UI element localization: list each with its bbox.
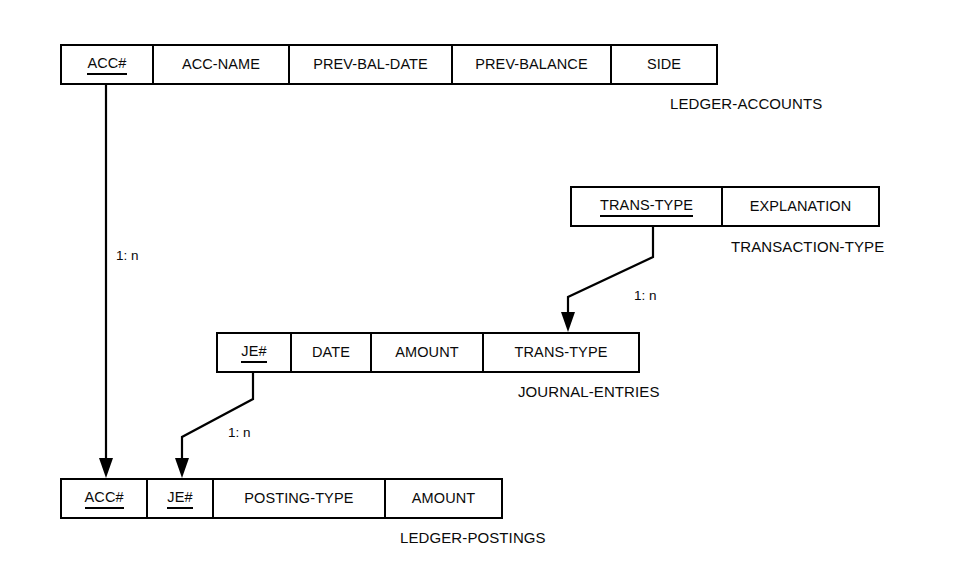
- entity-transaction-type[interactable]: TRANS-TYPE EXPLANATION: [570, 186, 880, 227]
- attribute-label: SIDE: [647, 56, 681, 73]
- attribute-posting-amount[interactable]: AMOUNT: [386, 480, 501, 517]
- attribute-side[interactable]: SIDE: [612, 46, 716, 83]
- entity-name-journal-entries: JOURNAL-ENTRIES: [518, 383, 660, 400]
- attribute-label: TRANS-TYPE: [600, 197, 693, 217]
- cardinality-accounts-to-postings: 1: n: [116, 248, 139, 263]
- attribute-label: PREV-BALANCE: [475, 56, 587, 73]
- entity-ledger-postings[interactable]: ACC# JE# POSTING-TYPE AMOUNT: [60, 478, 503, 519]
- attribute-acc-number[interactable]: ACC#: [62, 46, 154, 83]
- attribute-label: AMOUNT: [412, 490, 475, 507]
- attribute-label: AMOUNT: [395, 344, 458, 361]
- attribute-prev-balance[interactable]: PREV-BALANCE: [453, 46, 612, 83]
- attribute-label: ACC-NAME: [182, 56, 260, 73]
- entity-name-transaction-type: TRANSACTION-TYPE: [731, 238, 884, 255]
- attribute-label: JE#: [241, 343, 266, 363]
- attribute-label: EXPLANATION: [750, 198, 852, 215]
- attribute-label: ACC#: [85, 489, 124, 509]
- attribute-label: ACC#: [87, 55, 126, 75]
- attribute-date[interactable]: DATE: [292, 334, 372, 371]
- attribute-label: TRANS-TYPE: [515, 344, 608, 361]
- diagram-canvas: ACC# ACC-NAME PREV-BAL-DATE PREV-BALANCE…: [0, 0, 965, 588]
- attribute-acc-name[interactable]: ACC-NAME: [154, 46, 290, 83]
- cardinality-transtype-to-journal: 1: n: [634, 288, 657, 303]
- attribute-amount[interactable]: AMOUNT: [372, 334, 484, 371]
- attribute-posting-type[interactable]: POSTING-TYPE: [214, 480, 386, 517]
- connector-accounts-to-postings: [99, 85, 113, 478]
- arrowhead-icon: [561, 312, 575, 332]
- attribute-label: POSTING-TYPE: [244, 490, 353, 507]
- attribute-explanation[interactable]: EXPLANATION: [723, 188, 878, 225]
- attribute-prev-bal-date[interactable]: PREV-BAL-DATE: [290, 46, 453, 83]
- attribute-je-number[interactable]: JE#: [218, 334, 292, 371]
- attribute-je-number-fk[interactable]: JE#: [148, 480, 213, 517]
- connector-transtype-to-journal: [561, 227, 653, 332]
- arrowhead-icon: [175, 458, 189, 478]
- entity-ledger-accounts[interactable]: ACC# ACC-NAME PREV-BAL-DATE PREV-BALANCE…: [60, 44, 718, 85]
- entity-name-ledger-accounts: LEDGER-ACCOUNTS: [670, 95, 822, 112]
- attribute-trans-type[interactable]: TRANS-TYPE: [572, 188, 723, 225]
- arrowhead-icon: [99, 458, 113, 478]
- attribute-trans-type-fk[interactable]: TRANS-TYPE: [484, 334, 638, 371]
- cardinality-journal-to-postings: 1: n: [228, 425, 251, 440]
- attribute-acc-number-fk[interactable]: ACC#: [62, 480, 148, 517]
- entity-name-ledger-postings: LEDGER-POSTINGS: [400, 529, 546, 546]
- attribute-label: DATE: [312, 344, 350, 361]
- attribute-label: PREV-BAL-DATE: [313, 56, 428, 73]
- attribute-label: JE#: [167, 489, 192, 509]
- entity-journal-entries[interactable]: JE# DATE AMOUNT TRANS-TYPE: [216, 332, 640, 373]
